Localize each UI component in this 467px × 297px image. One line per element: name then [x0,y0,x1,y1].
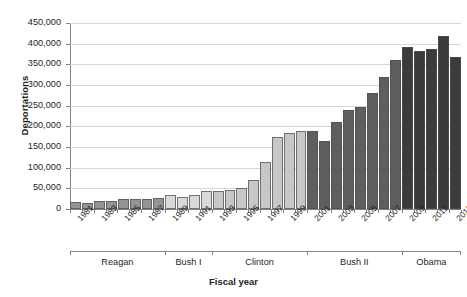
bar-2008 [390,60,401,209]
x-axis-tick-label-1991: 1991 [193,216,200,223]
era-brackets-group: ReaganBush IClintonBush IIObama [70,251,461,279]
y-axis-tick-label: 100,000 [0,162,61,172]
x-axis-tick-label-1989: 1989 [170,216,177,223]
x-axis-tick-label-2007: 2007 [383,216,390,223]
bar-1985 [118,199,129,209]
y-axis-tick-label: 450,000 [0,17,61,27]
y-axis-tick-label: 50,000 [0,182,61,192]
bar-2004 [343,110,354,209]
era-bracket-tick [460,251,461,255]
bar-1997 [260,162,271,209]
bar-1987 [142,199,153,209]
y-axis-tick-label: 200,000 [0,120,61,130]
era-bracket-tick [212,251,213,255]
y-axis-tick-label: 400,000 [0,38,61,48]
bar-1999 [284,133,295,209]
bar-2003 [331,122,342,209]
x-axis-tick-label-2011: 2011 [430,216,437,223]
era-rule-clinton [212,251,307,252]
bar-2011 [426,49,437,209]
era-label-reagan: Reagan [70,257,165,267]
era-label-obama: Obama [402,257,461,267]
bar-2013 [450,57,461,209]
bar-1998 [272,137,283,209]
x-axis-tick-label-2009: 2009 [407,216,414,223]
x-axis-tick-label-1999: 1999 [288,216,295,223]
x-axis-tick-label-1985: 1985 [122,216,129,223]
x-axis-tick-label-1987: 1987 [146,216,153,223]
bars-group [70,23,461,209]
bar-2001 [307,131,318,209]
x-axis-tick-label-2003: 2003 [336,216,343,223]
bar-2005 [355,107,366,209]
y-axis-tick-label: 0 [0,203,61,213]
era-bracket-tick [307,251,308,255]
plot-area [70,23,461,209]
x-axis-tick-label-1983: 1983 [99,216,106,223]
bar-2009 [402,47,413,209]
y-axis-tick-label: 250,000 [0,100,61,110]
bar-2007 [379,77,390,209]
era-rule-obama [402,251,461,252]
era-rule-bush-ii [307,251,402,252]
era-bracket-tick [70,251,71,255]
y-axis-tick-label: 150,000 [0,141,61,151]
x-axis-tick-label-1993: 1993 [217,216,224,223]
x-axis-title: Fiscal year [0,276,467,287]
era-rule-reagan [70,251,165,252]
x-axis-tick-label-1997: 1997 [265,216,272,223]
bar-1991 [189,195,200,209]
bar-1981 [70,202,81,209]
era-bracket-tick [402,251,403,255]
x-axis-tick-labels: 1981198319851987198919911993199519971999… [70,210,461,250]
x-axis-tick-label-2013: 2013 [454,216,461,223]
bar-1989 [165,195,176,209]
era-rule-bush-i [165,251,212,252]
bar-2000 [296,131,307,209]
bar-1993 [213,191,224,209]
bar-2006 [367,93,378,209]
bar-2010 [414,51,425,209]
bar-2002 [319,141,330,209]
bar-2012 [438,36,449,209]
era-label-clinton: Clinton [212,257,307,267]
x-axis-tick-label-2005: 2005 [359,216,366,223]
y-axis-tick-label: 300,000 [0,79,61,89]
era-label-bush-ii: Bush II [307,257,402,267]
bar-1983 [94,201,105,209]
x-axis-tick-label-2001: 2001 [312,216,319,223]
x-axis-tick [70,210,71,213]
y-axis-tick-label: 350,000 [0,58,61,68]
x-axis-tick-label-1981: 1981 [75,216,82,223]
deportations-bar-chart: Deportations 450,000400,000350,000300,00… [0,0,467,297]
bar-1995 [236,188,247,209]
x-axis-tick-label-1995: 1995 [241,216,248,223]
era-bracket-tick [165,251,166,255]
era-label-bush-i: Bush I [165,257,212,267]
